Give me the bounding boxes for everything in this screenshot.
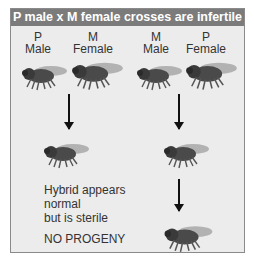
parent-label-3: M Male <box>131 31 181 55</box>
note-line: normal <box>44 197 125 211</box>
down-arrow-icon <box>68 94 70 129</box>
fruit-fly-icon <box>163 221 215 255</box>
sex-label: Female <box>68 43 118 55</box>
sex-label: Male <box>131 43 181 55</box>
fruit-fly-icon <box>71 57 125 93</box>
sex-label: Female <box>181 43 231 55</box>
fruit-fly-icon <box>163 139 211 171</box>
cross-diagram-panel: P male x M female crosses are infertile … <box>10 8 245 253</box>
down-arrow-icon <box>178 179 180 211</box>
note-line: Hybrid appears <box>44 183 125 197</box>
parent-label-4: P Female <box>181 31 231 55</box>
fruit-fly-icon <box>43 139 91 171</box>
fruit-fly-icon <box>185 57 239 93</box>
no-progeny-label: NO PROGENY <box>44 232 125 246</box>
hybrid-note: Hybrid appears normal but is sterile <box>44 183 125 225</box>
note-line: but is sterile <box>44 211 125 225</box>
diagram-title: P male x M female crosses are infertile <box>11 9 244 26</box>
parent-label-1: P Male <box>13 31 63 55</box>
fruit-fly-icon <box>21 61 69 93</box>
fruit-fly-icon <box>136 61 184 93</box>
parent-label-2: M Female <box>68 31 118 55</box>
sex-label: Male <box>13 43 63 55</box>
down-arrow-icon <box>178 94 180 129</box>
